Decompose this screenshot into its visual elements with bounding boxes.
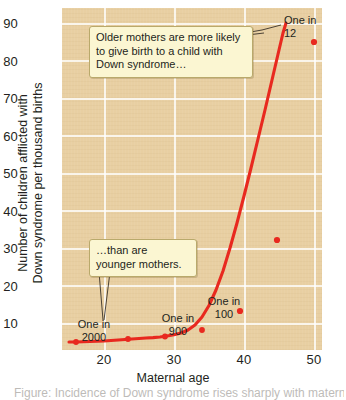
- gridline-y-20: [62, 285, 322, 287]
- x-axis-title: Maternal age: [0, 371, 346, 385]
- x-tick-50: 50: [294, 352, 334, 367]
- gridline-y-60: [62, 135, 322, 137]
- x-tick-40: 40: [224, 352, 264, 367]
- y-axis-title-line2: Down syndrome per thousand births: [31, 83, 45, 284]
- figure-caption: Figure: Incidence of Down syndrome rises…: [14, 386, 344, 400]
- y-tick-10: 10: [0, 316, 18, 331]
- gridline-y-50: [62, 173, 322, 175]
- x-tick-30: 30: [154, 352, 194, 367]
- y-tick-90: 90: [0, 16, 18, 31]
- x-tick-20: 20: [84, 352, 124, 367]
- annotation-one-in-12: One in 12: [284, 14, 334, 39]
- annotation-one-in-2000: One in 2000: [66, 318, 122, 343]
- gridline-y-70: [62, 98, 322, 100]
- gridline-y-40: [62, 210, 322, 212]
- y-axis-title-line1: Number of children afflicted with: [16, 94, 30, 272]
- gridline-x-50: [314, 8, 316, 350]
- callout-older-mothers: Older mothers are more likely to give bi…: [89, 26, 253, 78]
- annotation-one-in-100: One in 100: [196, 295, 252, 320]
- y-axis-title: Number of children afflicted with Down s…: [16, 48, 46, 318]
- gridline-y-90: [62, 23, 322, 25]
- callout-younger-mothers: …than are younger mothers.: [89, 239, 197, 277]
